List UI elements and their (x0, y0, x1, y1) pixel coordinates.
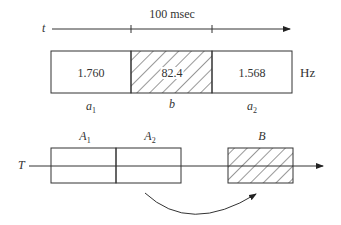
segment-a2-label: a2 (247, 100, 257, 115)
unit-label: Hz (300, 66, 315, 79)
block-a1-label: A1 (79, 130, 90, 145)
top-timeline-axis (52, 25, 290, 33)
block-a2-label: A2 (144, 130, 155, 145)
block-b-label: B (258, 130, 265, 142)
segment-a2-value: 1.568 (239, 67, 266, 79)
axis-t-label: T (18, 159, 25, 171)
duration-label: 100 msec (149, 8, 195, 20)
diagram-canvas (0, 0, 341, 225)
segment-b-label: b (169, 98, 175, 110)
curved-arrow-icon (145, 193, 256, 214)
segment-b-value: 82.4 (161, 67, 184, 79)
time-label: t (42, 22, 45, 34)
segment-a1-label: a1 (86, 100, 96, 115)
segment-a1-value: 1.760 (78, 67, 105, 79)
bottom-timeline (29, 148, 323, 183)
